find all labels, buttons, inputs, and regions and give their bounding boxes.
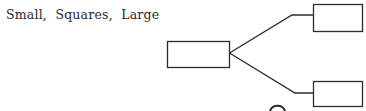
- top-child-box: [314, 5, 363, 32]
- edge-root-to-bottom: [230, 53, 314, 93]
- root-box: [168, 42, 230, 68]
- tree-diagram: [0, 0, 366, 111]
- bottom-child-box: [314, 82, 363, 107]
- edge-root-to-top: [230, 15, 314, 53]
- partial-circle-artifact: [270, 106, 285, 111]
